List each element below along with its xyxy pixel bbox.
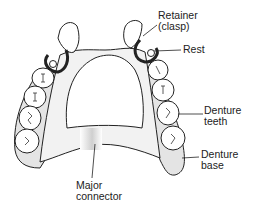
rest-left [50,61,57,68]
denture-tooth [15,129,39,153]
denture-tooth [161,126,185,150]
abutment-tooth-right [124,20,142,48]
denture-tooth [157,101,179,125]
connector-shading [80,128,102,150]
denture-teeth-label: Denture teeth [204,105,241,127]
abutment-tooth-left [58,23,79,53]
rest-right [148,50,155,57]
retainer-label: Retainer (clasp) [158,10,198,32]
denture-diagram [0,0,253,205]
denture-base-label: Denture base [201,149,238,171]
rest-label: Rest [183,44,205,55]
major-connector-label: Major connector [76,180,122,202]
